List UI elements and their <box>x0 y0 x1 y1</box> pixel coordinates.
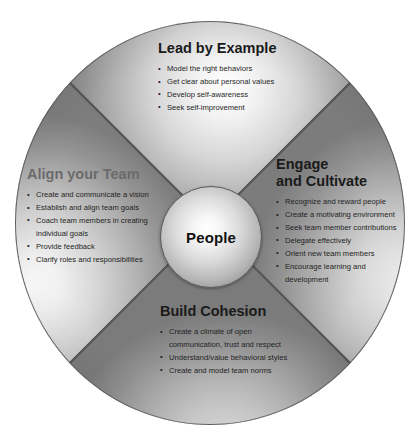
sector-bottom: Build Cohesion Create a climate of open … <box>160 303 325 378</box>
list-item: Create a climate of open <box>160 326 325 339</box>
sector-bottom-bullets: Create a climate of open communication, … <box>160 326 325 378</box>
list-item: Encourage learning and <box>276 261 411 274</box>
list-item: Coach team members in creating <box>27 215 182 228</box>
sector-right-bullets: Recognize and reward people Create a mot… <box>276 196 411 286</box>
list-item: Provide feedback <box>27 241 182 254</box>
list-item: Create and communicate a vision <box>27 189 182 202</box>
list-item: Delegate effectively <box>276 235 411 248</box>
sector-right-title-line2: and Cultivate <box>276 173 411 190</box>
sector-top-title: Lead by Example <box>158 40 318 57</box>
list-item-continuation: individual goals <box>27 228 182 241</box>
sector-top: Lead by Example Model the right behavior… <box>158 40 318 115</box>
list-item: Clarify roles and responsibilities <box>27 254 182 267</box>
list-item: Create and model team norms <box>160 365 325 378</box>
sector-top-bullets: Model the right behaviors Get clear abou… <box>158 63 318 115</box>
center-hub-label: People <box>186 229 236 246</box>
list-item-continuation: communication, trust and respect <box>160 339 325 352</box>
list-item: Understand/value behavioral styles <box>160 352 325 365</box>
leadership-wheel-diagram: People Lead by Example Model the right b… <box>0 0 419 439</box>
list-item: Model the right behaviors <box>158 63 318 76</box>
sector-right-title: Engage and Cultivate <box>276 156 411 190</box>
sector-bottom-title: Build Cohesion <box>160 303 325 320</box>
list-item: Create a motivating environment <box>276 209 411 222</box>
list-item: Orient new team members <box>276 248 411 261</box>
sector-left-title: Align your Team <box>27 166 182 183</box>
list-item: Get clear about personal values <box>158 76 318 89</box>
sector-right-title-line1: Engage <box>276 156 411 173</box>
list-item: Seek self-improvement <box>158 102 318 115</box>
list-item: Recognize and reward people <box>276 196 411 209</box>
sector-right: Engage and Cultivate Recognize and rewar… <box>276 156 411 287</box>
list-item: Seek team member contributions <box>276 222 411 235</box>
sector-left-bullets: Create and communicate a vision Establis… <box>27 189 182 266</box>
sector-left: Align your Team Create and communicate a… <box>27 166 182 267</box>
list-item-continuation: development <box>276 274 411 287</box>
list-item: Develop self-awareness <box>158 89 318 102</box>
list-item: Establish and align team goals <box>27 202 182 215</box>
